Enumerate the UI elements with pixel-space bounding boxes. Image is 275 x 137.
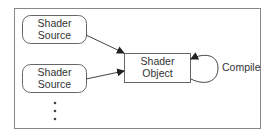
arrow-source2-to-object [86,71,124,79]
ellipsis-dots [54,102,57,121]
source-box-1: Shader Source [23,16,87,44]
source-2-line1: Shader [38,66,72,78]
source-2-line2: Source [38,78,71,90]
compile-loop-arrow [191,55,218,82]
compile-label: Compile [222,61,261,73]
source-1-line1: Shader [38,17,72,29]
shader-object-box: Shader Object [125,54,191,83]
source-1-line2: Source [38,29,71,41]
target-line2: Object [142,67,172,79]
source-box-2: Shader Source [23,65,87,93]
arrow-source1-to-object [86,35,124,53]
diagram-canvas: Shader Source Shader Source Shader Objec… [0,0,275,137]
target-line1: Shader [141,55,175,67]
